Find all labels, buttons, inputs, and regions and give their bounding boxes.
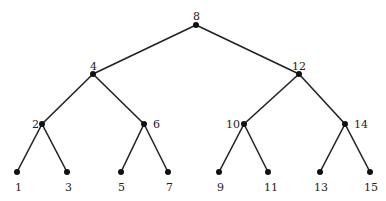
edge-n12-n14 [299, 74, 345, 124]
node-label-7: 7 [166, 182, 173, 193]
node-11 [265, 169, 271, 175]
node-10 [241, 121, 247, 127]
node-5 [118, 169, 124, 175]
edge-n8-n4 [93, 25, 196, 74]
edge-n8-n12 [196, 25, 299, 74]
node-label-13: 13 [314, 182, 328, 193]
node-label-5: 5 [118, 182, 125, 193]
edge-n12-n10 [244, 74, 299, 124]
node-label-12: 12 [292, 61, 306, 72]
node-7 [165, 169, 171, 175]
node-label-3: 3 [65, 182, 72, 193]
edge-n4-n2 [42, 74, 93, 124]
node-13 [317, 169, 323, 175]
node-label-15: 15 [364, 182, 378, 193]
edge-n10-n9 [219, 124, 244, 172]
edge-n2-n3 [42, 124, 67, 172]
node-label-9: 9 [217, 182, 224, 193]
node-label-2: 2 [32, 119, 39, 130]
edge-n6-n5 [121, 124, 144, 172]
node-6 [141, 121, 147, 127]
binary-tree-diagram: 841226101413579111315 [0, 0, 386, 201]
node-label-6: 6 [153, 119, 160, 130]
node-15 [367, 169, 373, 175]
node-3 [64, 169, 70, 175]
node-9 [216, 169, 222, 175]
edge-n14-n15 [345, 124, 370, 172]
edge-n4-n6 [93, 74, 144, 124]
edge-n2-n1 [17, 124, 42, 172]
node-2 [39, 121, 45, 127]
edge-n6-n7 [144, 124, 168, 172]
node-label-11: 11 [264, 182, 278, 193]
node-label-8: 8 [193, 11, 200, 22]
node-label-14: 14 [354, 119, 368, 130]
node-label-10: 10 [226, 119, 240, 130]
node-14 [342, 121, 348, 127]
tree-edges-and-nodes [0, 0, 386, 201]
node-1 [14, 169, 20, 175]
node-label-4: 4 [90, 61, 97, 72]
edge-n10-n11 [244, 124, 268, 172]
edge-n14-n13 [320, 124, 345, 172]
node-label-1: 1 [15, 182, 22, 193]
